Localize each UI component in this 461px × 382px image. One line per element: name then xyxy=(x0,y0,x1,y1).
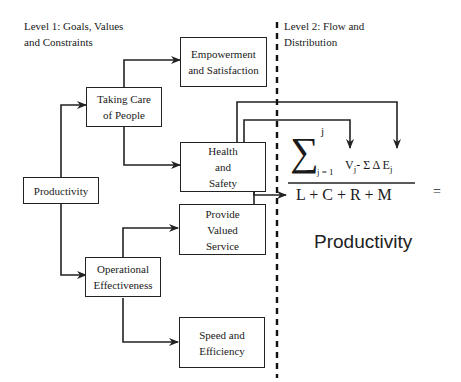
box-productivity: Productivity xyxy=(23,177,99,204)
box-valued-service-text: Provide Valued Service xyxy=(205,206,239,254)
box-operational-text: Operational Effectiveness xyxy=(93,261,152,293)
box-health-safety-text: Health and Safety xyxy=(208,143,237,191)
summation-lower: j = 1 xyxy=(317,167,334,177)
box-empowerment-text: Empowerment and Satisfaction xyxy=(188,46,259,78)
denominator: L + C + R + M xyxy=(296,186,392,204)
box-empowerment: Empowerment and Satisfaction xyxy=(180,37,267,87)
box-speed-efficiency: Speed and Efficiency xyxy=(179,317,265,368)
level2-label: Level 2: Flow and Distribution xyxy=(284,18,364,50)
box-health-safety: Health and Safety xyxy=(180,142,266,192)
minus-sum-delta-e: - Σ Δ E xyxy=(356,158,390,172)
box-taking-care: Taking Care of People xyxy=(86,87,162,127)
box-operational: Operational Effectiveness xyxy=(85,257,161,297)
box-valued-service: Provide Valued Service xyxy=(179,204,266,255)
summation-upper: j xyxy=(321,125,324,137)
box-taking-care-text: Taking Care of People xyxy=(97,91,151,123)
e-subscript: j xyxy=(390,164,393,174)
result-productivity: Productivity xyxy=(314,231,412,253)
equals-sign: = xyxy=(433,184,441,200)
numerator-v: Vj- Σ Δ Ej xyxy=(345,158,392,174)
summation-symbol: ∑ xyxy=(290,132,319,172)
level1-label: Level 1: Goals, Values and Constraints xyxy=(24,18,123,50)
box-productivity-text: Productivity xyxy=(34,183,88,199)
box-speed-efficiency-text: Speed and Efficiency xyxy=(199,327,245,359)
v-symbol: V xyxy=(345,158,354,172)
